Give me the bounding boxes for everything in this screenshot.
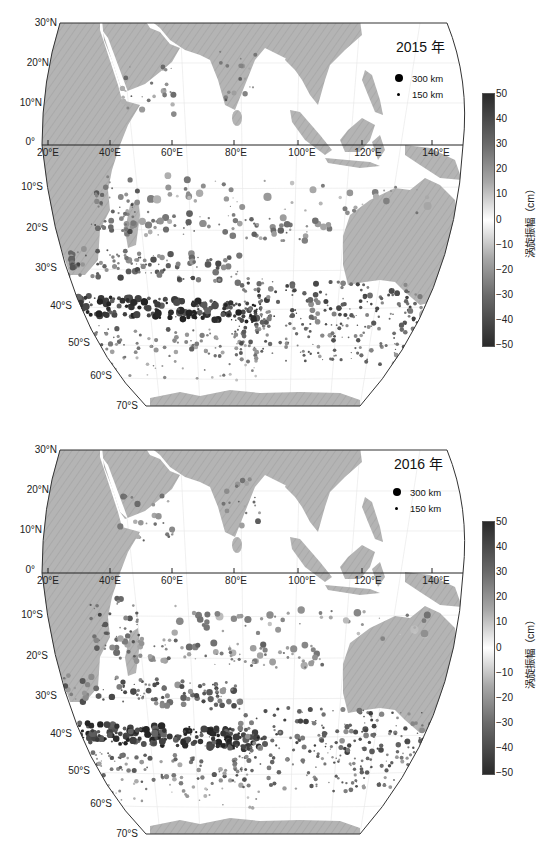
eddy-point <box>278 650 282 654</box>
eddy-point <box>331 610 333 612</box>
eddy-point <box>280 214 287 221</box>
eddy-point <box>247 727 250 730</box>
eddy-point <box>280 239 283 242</box>
eddy-point <box>169 527 175 533</box>
eddy-point <box>332 312 337 317</box>
eddy-point <box>97 299 103 305</box>
eddy-point <box>401 328 403 330</box>
eddy-point <box>177 762 182 767</box>
eddy-point <box>440 300 445 305</box>
eddy-point <box>428 326 430 328</box>
eddy-point <box>364 722 365 723</box>
eddy-point <box>102 624 105 627</box>
cb-tick: 40 <box>496 541 507 552</box>
eddy-point <box>332 710 333 711</box>
eddy-point <box>60 685 63 688</box>
eddy-point <box>314 744 316 746</box>
eddy-point <box>188 689 193 694</box>
eddy-point <box>157 234 159 236</box>
eddy-point <box>168 309 174 315</box>
eddy-point <box>111 187 113 189</box>
eddy-point <box>361 623 364 626</box>
eddy-point <box>265 325 266 326</box>
lon-label-40e: 40°E <box>99 147 121 158</box>
eddy-point <box>261 282 264 285</box>
eddy-point <box>116 265 117 266</box>
eddy-point <box>230 206 231 207</box>
eddy-point <box>404 323 406 325</box>
eddy-point <box>146 688 152 694</box>
eddy-point <box>432 787 436 791</box>
eddy-point <box>58 268 64 274</box>
eddy-point <box>189 730 191 732</box>
eddy-point <box>388 785 392 789</box>
eddy-point <box>101 760 102 761</box>
eddy-point <box>236 614 241 619</box>
eddy-point <box>118 790 121 793</box>
eddy-point <box>173 757 177 761</box>
eddy-point <box>342 298 344 300</box>
eddy-point <box>85 720 91 726</box>
eddy-point <box>231 333 233 335</box>
eddy-point <box>257 652 263 658</box>
eddy-point <box>373 735 374 736</box>
eddy-point <box>154 338 158 342</box>
eddy-point <box>248 340 253 345</box>
eddy-point <box>152 683 157 688</box>
eddy-point <box>394 186 397 189</box>
eddy-point <box>370 718 373 721</box>
eddy-point <box>416 359 417 360</box>
eddy-point <box>124 227 128 231</box>
eddy-point <box>94 638 100 644</box>
eddy-point <box>266 611 273 618</box>
eddy-point <box>95 754 97 756</box>
eddy-point <box>184 187 188 191</box>
eddy-point <box>362 283 365 286</box>
eddy-point <box>269 753 273 757</box>
eddy-point <box>229 373 232 376</box>
eddy-point <box>300 352 302 354</box>
eddy-point <box>123 727 127 731</box>
eddy-point <box>133 783 135 785</box>
eddy-point <box>419 306 423 310</box>
eddy-point <box>242 330 247 335</box>
eddy-point <box>290 181 295 186</box>
eddy-point <box>106 175 109 178</box>
eddy-point <box>269 783 273 787</box>
eddy-point <box>197 257 198 258</box>
eddy-point <box>117 304 122 309</box>
eddy-point <box>147 296 151 300</box>
eddy-point <box>204 307 211 314</box>
eddy-point <box>325 323 327 325</box>
eddy-point <box>245 625 247 627</box>
eddy-point <box>349 762 352 765</box>
cb-tick: −40 <box>496 314 513 325</box>
eddy-point <box>105 366 108 369</box>
eddy-point <box>144 768 147 771</box>
eddy-point <box>182 789 186 793</box>
eddy-point <box>437 749 441 753</box>
eddy-point <box>174 331 177 334</box>
eddy-point <box>248 67 250 69</box>
eddy-point <box>403 354 404 355</box>
eddy-point <box>327 752 328 753</box>
eddy-point <box>90 303 93 306</box>
eddy-point <box>435 730 440 735</box>
eddy-point <box>367 325 371 329</box>
eddy-point <box>97 721 103 727</box>
eddy-point <box>343 313 347 317</box>
eddy-point <box>338 745 343 750</box>
eddy-point <box>360 289 363 292</box>
eddy-point <box>230 654 233 657</box>
eddy-point <box>430 789 435 794</box>
eddy-point <box>429 769 433 773</box>
eddy-point <box>362 204 364 206</box>
eddy-point <box>215 180 217 182</box>
eddy-point <box>347 190 354 197</box>
lat-label-70s: 70°S <box>98 400 138 411</box>
eddy-point <box>179 684 184 689</box>
eddy-point <box>421 774 425 778</box>
eddy-point <box>329 280 333 284</box>
eddy-point <box>407 308 413 314</box>
eddy-point <box>80 262 85 267</box>
